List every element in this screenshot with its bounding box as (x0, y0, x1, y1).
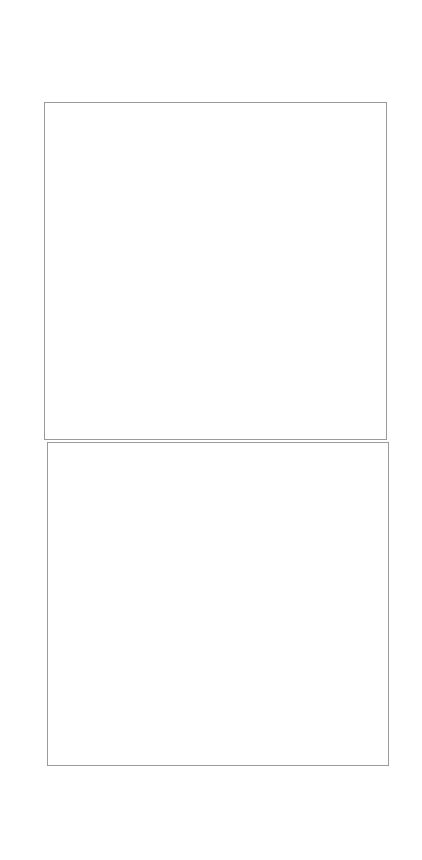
chart-frame (44, 102, 387, 440)
chart-frame (47, 442, 389, 766)
